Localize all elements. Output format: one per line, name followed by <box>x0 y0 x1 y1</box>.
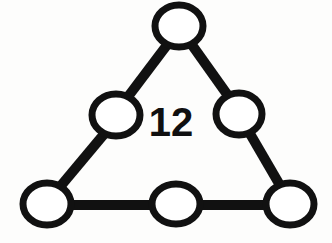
left-edge-midpoint-node[interactable] <box>92 94 140 136</box>
edge-apex-to-left-mid <box>127 45 167 98</box>
top-vertex-node[interactable] <box>155 5 203 47</box>
bottom-right-vertex-node[interactable] <box>266 183 314 225</box>
bottom-left-vertex-node[interactable] <box>23 183 71 225</box>
diagram-canvas <box>0 0 332 243</box>
edge-right-mid-to-bottom-right <box>249 132 281 187</box>
bottom-edge-midpoint-node[interactable] <box>152 184 200 224</box>
edge-apex-to-right-mid <box>192 45 229 97</box>
triangle-diagram: 12 <box>0 0 332 243</box>
right-edge-midpoint-node[interactable] <box>216 93 262 135</box>
edge-left-mid-to-bottom-left <box>59 133 105 188</box>
nodes-layer <box>23 5 314 225</box>
